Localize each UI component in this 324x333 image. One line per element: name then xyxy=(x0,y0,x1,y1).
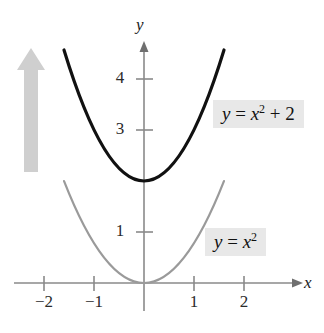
lower-eq-equals: = xyxy=(227,231,238,252)
lower-eq-var: x xyxy=(243,231,251,252)
y-axis-label: y xyxy=(136,15,144,35)
upper-eq-plus: + xyxy=(270,103,281,124)
parabola-shift-figure: y x −2 −1 1 2 4 3 1 y = x2 + 2 y = x2 xyxy=(0,0,324,333)
plot-canvas xyxy=(0,0,324,333)
x-axis xyxy=(14,276,303,291)
label-upper-curve-equation: y = x2 + 2 xyxy=(213,100,304,128)
upper-eq-equals: = xyxy=(235,103,246,124)
upward-shift-arrow xyxy=(17,48,45,172)
y-tick-label-3: 3 xyxy=(110,119,130,139)
upper-eq-exponent: 2 xyxy=(259,102,265,116)
x-tick-label-2: 2 xyxy=(232,292,256,312)
x-tick-label--1: −1 xyxy=(80,292,108,312)
lower-eq-exponent: 2 xyxy=(251,230,257,244)
lower-eq-lhs: y xyxy=(214,231,222,252)
x-tick-label-1: 1 xyxy=(182,292,206,312)
upper-eq-constant: 2 xyxy=(285,103,295,124)
label-lower-curve-equation: y = x2 xyxy=(205,228,266,256)
y-tick-label-4: 4 xyxy=(110,68,130,88)
upper-eq-var: x xyxy=(251,103,259,124)
y-tick-label-1: 1 xyxy=(110,221,130,241)
x-tick-label--2: −2 xyxy=(30,292,58,312)
x-axis-label: x xyxy=(304,273,312,293)
y-axis xyxy=(136,41,153,311)
upper-eq-lhs: y xyxy=(222,103,230,124)
